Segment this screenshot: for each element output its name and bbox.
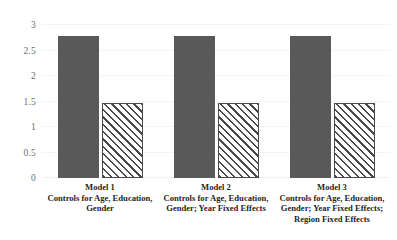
- y-axis-tick-label: 0.5: [24, 148, 36, 158]
- bars: [274, 25, 390, 178]
- bar-group: [42, 25, 158, 178]
- bar-chart: 32.521.510.50 Model 1Controls for Age, E…: [0, 0, 397, 240]
- bars: [42, 25, 158, 178]
- x-axis-model-description-line: Gender; Year Fixed Effects: [159, 203, 273, 214]
- bar-series-2-hatched: [334, 103, 375, 178]
- bars: [158, 25, 274, 178]
- x-axis-labels: Model 1Controls for Age, Education,Gende…: [42, 182, 390, 224]
- bar-group: [158, 25, 274, 178]
- x-axis-model-name: Model 2: [159, 182, 273, 193]
- y-axis: 32.521.510.50: [0, 25, 36, 178]
- bar-series-1-solid: [290, 36, 331, 178]
- bar-group: [274, 25, 390, 178]
- bar-series-2-hatched: [102, 103, 143, 178]
- y-axis-tick-label: 0: [31, 173, 36, 183]
- x-axis-model-name: Model 1: [43, 182, 157, 193]
- y-axis-tick-label: 1.5: [24, 97, 36, 107]
- bar-series-2-hatched: [218, 103, 259, 178]
- x-axis-model-name: Model 3: [275, 182, 389, 193]
- bar-series-1-solid: [174, 36, 215, 178]
- x-axis-model-description-line: Controls for Age, Education,: [159, 193, 273, 204]
- x-axis-model-description-line: Region Fixed Effects: [275, 214, 389, 225]
- bar-series-1-solid: [58, 36, 99, 178]
- x-axis-model-description-line: Gender; Year Fixed Effects;: [275, 203, 389, 214]
- y-axis-tick-label: 1: [31, 122, 36, 132]
- x-axis-model-description-line: Gender: [43, 203, 157, 214]
- x-axis-group-label: Model 3Controls for Age, Education,Gende…: [274, 182, 390, 224]
- bar-groups: [42, 25, 390, 178]
- x-axis-model-description-line: Controls for Age, Education,: [43, 193, 157, 204]
- x-axis-model-description-line: Controls for Age, Education,: [275, 193, 389, 204]
- x-axis-group-label: Model 2Controls for Age, Education,Gende…: [158, 182, 274, 224]
- x-axis-group-label: Model 1Controls for Age, Education,Gende…: [42, 182, 158, 224]
- y-axis-tick-label: 3: [31, 20, 36, 30]
- y-axis-tick-label: 2: [31, 71, 36, 81]
- y-axis-tick-label: 2.5: [24, 46, 36, 56]
